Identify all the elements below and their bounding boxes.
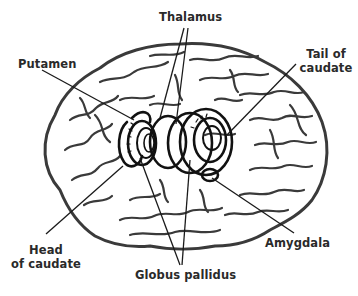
label-tail-of-caudate-line2: caudate [296, 61, 356, 75]
label-globus-pallidus: Globus pallidus [135, 268, 236, 282]
basal-ganglia [119, 109, 232, 181]
brain-diagram: Thalamus Putamen Tail of caudate Head of… [0, 0, 358, 296]
label-amygdala: Amygdala [265, 236, 330, 250]
head-of-caudate-leader [46, 166, 123, 234]
label-tail-of-caudate: Tail of caudate [296, 47, 356, 75]
label-head-of-caudate-line2: of caudate [10, 257, 82, 271]
label-head-of-caudate: Head of caudate [10, 243, 82, 271]
label-head-of-caudate-line1: Head [10, 243, 82, 257]
label-tail-of-caudate-line1: Tail of [296, 47, 356, 61]
brain-gyri [65, 52, 316, 235]
amygdala-leader [212, 178, 294, 233]
label-putamen: Putamen [18, 57, 77, 71]
label-thalamus: Thalamus [159, 10, 222, 24]
